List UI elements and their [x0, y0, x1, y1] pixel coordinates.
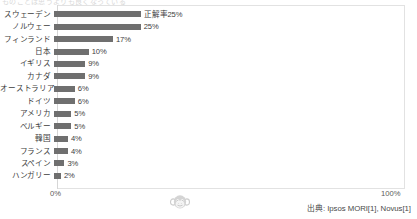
bar-value-label: 5% [74, 122, 85, 131]
bar-row: 日本10% [0, 45, 417, 57]
bar-category-label: ハンガリー [0, 171, 54, 180]
bar-track: 25% [54, 20, 417, 32]
bar-category-label: フィンランド [0, 35, 54, 44]
bar-value-label: 正解率25% [144, 10, 183, 19]
bar-track: 6% [54, 83, 417, 95]
bar-track: 9% [54, 70, 417, 82]
bar-track: 2% [54, 170, 417, 182]
bar [54, 160, 64, 166]
bar-category-label: ノルウェー [0, 22, 54, 31]
monkey-face-icon [169, 193, 191, 211]
bar-row: スウェーデン正解率25% [0, 8, 417, 20]
bar-row: カナダ9% [0, 70, 417, 82]
bar-row: ノルウェー25% [0, 20, 417, 32]
bar-track: 4% [54, 145, 417, 157]
bar-row: 韓国4% [0, 132, 417, 144]
bar-track: 5% [54, 108, 417, 120]
bar-track: 10% [54, 45, 417, 57]
bar-value-label: 5% [74, 109, 85, 118]
bar-track: 9% [54, 58, 417, 70]
bar [54, 11, 141, 17]
bar-category-label: ベルギー [0, 122, 54, 131]
bar [54, 61, 85, 67]
bar-row: フランス4% [0, 145, 417, 157]
bar-row: フィンランド17% [0, 33, 417, 45]
bar-value-label: 9% [88, 72, 99, 81]
bar-value-label: 4% [71, 147, 82, 156]
bar [54, 136, 68, 142]
bar-category-label: 日本 [0, 47, 54, 56]
bar-value-label: 6% [78, 97, 89, 106]
bar-row: アメリカ5% [0, 108, 417, 120]
x-axis-tick-min: 0% [50, 189, 61, 199]
x-axis-tick-max: 100% [381, 189, 400, 199]
bar [54, 86, 75, 92]
bar-chart-rows: スウェーデン正解率25%ノルウェー25%フィンランド17%日本10%イギリス9%… [0, 8, 417, 188]
bar [54, 49, 89, 55]
bar-track: 6% [54, 95, 417, 107]
bar-track: 正解率25% [54, 8, 417, 20]
bar-category-label: イギリス [0, 59, 54, 68]
bar [54, 173, 61, 179]
bar-track: 3% [54, 157, 417, 169]
bar-category-label: カナダ [0, 72, 54, 81]
bar-value-label: 9% [88, 59, 99, 68]
bar [54, 36, 113, 42]
bar [54, 98, 75, 104]
bar-row: オーストラリア6% [0, 83, 417, 95]
bar-value-label: 6% [78, 84, 89, 93]
bar-category-label: スウェーデン [0, 10, 54, 19]
bar [54, 111, 71, 117]
bar-category-label: オーストラリア [0, 84, 54, 93]
bar-category-label: スペイン [0, 159, 54, 168]
bar-track: 5% [54, 120, 417, 132]
bar-row: イギリス9% [0, 58, 417, 70]
bar-category-label: フランス [0, 147, 54, 156]
source-citation: 出典: Ipsos MORI[1], Novus[1] [307, 203, 411, 214]
bar-row: ベルギー5% [0, 120, 417, 132]
bar-row: ハンガリー2% [0, 170, 417, 182]
bar-track: 17% [54, 33, 417, 45]
bar-row: スペイン3% [0, 157, 417, 169]
value-axis: 0% 100% [0, 189, 417, 201]
bar-category-label: ドイツ [0, 97, 54, 106]
bar-track: 4% [54, 132, 417, 144]
bar [54, 73, 85, 79]
bar-value-label: 17% [116, 35, 131, 44]
bar-value-label: 10% [92, 47, 107, 56]
bar-value-label: 2% [64, 171, 75, 180]
bar-value-label: 3% [67, 159, 78, 168]
bar-value-label: 25% [144, 22, 159, 31]
bar [54, 123, 71, 129]
bar-category-label: 韓国 [0, 134, 54, 143]
bar [54, 148, 68, 154]
bar [54, 24, 141, 30]
bar-row: ドイツ6% [0, 95, 417, 107]
bar-value-label: 4% [71, 134, 82, 143]
bar-category-label: アメリカ [0, 109, 54, 118]
